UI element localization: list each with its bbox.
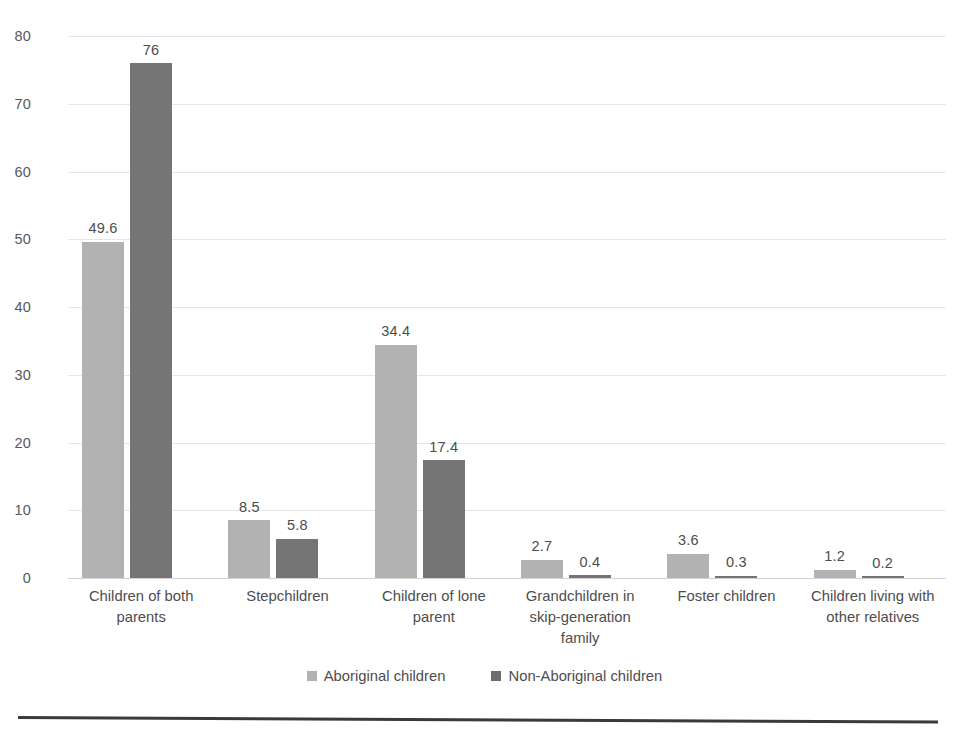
bar-slot: 8.5 [228,36,270,578]
bar-value-label: 3.6 [678,533,699,548]
bar-aboriginal-stepchildren[interactable] [228,520,270,578]
category-line: Grandchildren in [526,588,635,604]
axis-baseline [68,578,946,579]
plot-area: 80 70 60 50 40 30 20 10 0 49.6 76 [68,36,946,578]
bar-value-label: 5.8 [287,518,308,533]
y-tick-label-80: 80 [0,29,31,44]
bar-group-stepchildren: 8.5 5.8 [214,36,360,578]
bar-group-grandchildren-skip-generation: 2.7 0.4 [507,36,653,578]
bar-value-label: 1.2 [824,549,845,564]
bar-value-label: 0.2 [872,556,893,571]
y-tick-label-60: 60 [0,164,31,179]
bar-group-foster-children: 3.6 0.3 [653,36,799,578]
bar-slot: 0.3 [715,36,757,578]
grouped-bar-chart: 80 70 60 50 40 30 20 10 0 49.6 76 [0,0,969,738]
bar-slot: 0.2 [862,36,904,578]
category-label-foster-children: Foster children [653,586,799,656]
bar-group-children-of-lone-parent: 34.4 17.4 [361,36,507,578]
category-line: Children of both [89,588,193,604]
bar-slot: 0.4 [569,36,611,578]
bar-nonaboriginal-children-of-both-parents[interactable] [130,63,172,578]
bar-slot: 76 [130,36,172,578]
legend-label: Aboriginal children [324,668,446,684]
bar-slot: 2.7 [521,36,563,578]
y-tick-label-50: 50 [0,232,31,247]
category-line: other relatives [826,609,919,625]
category-label-children-of-lone-parent: Children of lone parent [361,586,507,656]
legend-label: Non-Aboriginal children [508,668,662,684]
category-line: family [561,630,600,646]
category-label-children-with-other-relatives: Children living with other relatives [800,586,946,656]
bar-value-label: 2.7 [532,539,553,554]
y-tick-label-70: 70 [0,97,31,112]
legend-swatch-square-icon [307,671,317,681]
y-tick-label-0: 0 [0,571,31,586]
category-line: skip-generation [530,609,631,625]
bar-groups: 49.6 76 8.5 5.8 [68,36,946,578]
bar-aboriginal-children-with-other-relatives[interactable] [814,570,856,578]
bar-value-label: 8.5 [239,500,260,515]
bar-value-label: 49.6 [88,221,117,236]
bar-slot: 17.4 [423,36,465,578]
bar-aboriginal-children-of-lone-parent[interactable] [375,345,417,578]
bar-value-label: 34.4 [381,324,410,339]
category-label-grandchildren-skip-generation: Grandchildren in skip-generation family [507,586,653,656]
category-line: Foster children [678,588,776,604]
category-label-children-of-both-parents: Children of both parents [68,586,214,656]
bar-nonaboriginal-children-of-lone-parent[interactable] [423,460,465,578]
bar-aboriginal-grandchildren-skip-generation[interactable] [521,560,563,578]
category-line: parent [413,609,455,625]
category-line: Stepchildren [246,588,328,604]
y-tick-label-10: 10 [0,503,31,518]
bar-value-label: 76 [143,43,160,58]
legend-item-non-aboriginal-children[interactable]: Non-Aboriginal children [491,668,662,684]
y-tick-label-20: 20 [0,435,31,450]
legend-item-aboriginal-children[interactable]: Aboriginal children [307,668,446,684]
category-line: Children living with [811,588,934,604]
bar-slot: 5.8 [276,36,318,578]
category-line: parents [116,609,165,625]
page-divider-rule [18,716,938,723]
bar-nonaboriginal-stepchildren[interactable] [276,539,318,578]
category-axis: Children of both parents Stepchildren Ch… [68,586,946,656]
bar-nonaboriginal-grandchildren-skip-generation[interactable] [569,575,611,578]
y-tick-label-30: 30 [0,368,31,383]
bar-nonaboriginal-foster-children[interactable] [715,576,757,578]
bar-group-children-with-other-relatives: 1.2 0.2 [800,36,946,578]
bar-slot: 1.2 [814,36,856,578]
legend-swatch-square-icon [491,671,501,681]
bar-value-label: 0.4 [580,555,601,570]
bar-nonaboriginal-children-with-other-relatives[interactable] [862,576,904,578]
category-line: Children of lone [382,588,486,604]
bar-value-label: 17.4 [429,440,458,455]
bar-aboriginal-foster-children[interactable] [667,554,709,578]
bar-value-label: 0.3 [726,555,747,570]
chart-legend: Aboriginal children Non-Aboriginal child… [0,668,969,684]
bar-aboriginal-children-of-both-parents[interactable] [82,242,124,578]
bar-group-children-of-both-parents: 49.6 76 [68,36,214,578]
category-label-stepchildren: Stepchildren [214,586,360,656]
bar-slot: 3.6 [667,36,709,578]
bar-slot: 34.4 [375,36,417,578]
y-tick-label-40: 40 [0,300,31,315]
bar-slot: 49.6 [82,36,124,578]
